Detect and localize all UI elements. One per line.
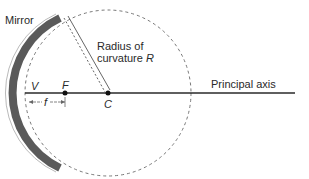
radius-label-text: curvature (97, 52, 143, 64)
radius-label-line1: Radius of (97, 40, 143, 52)
center-label: C (104, 98, 112, 110)
focal-point-label: F (62, 79, 69, 91)
focal-length-label: f (44, 96, 47, 108)
radius-label-line2: curvature R (97, 52, 154, 64)
focal-point-dot (63, 91, 68, 96)
vertex-label: V (31, 80, 38, 92)
principal-axis-label: Principal axis (211, 78, 276, 90)
mirror-label: Mirror (5, 14, 34, 26)
center-point-dot (106, 91, 111, 96)
radius-symbol: R (146, 52, 154, 64)
